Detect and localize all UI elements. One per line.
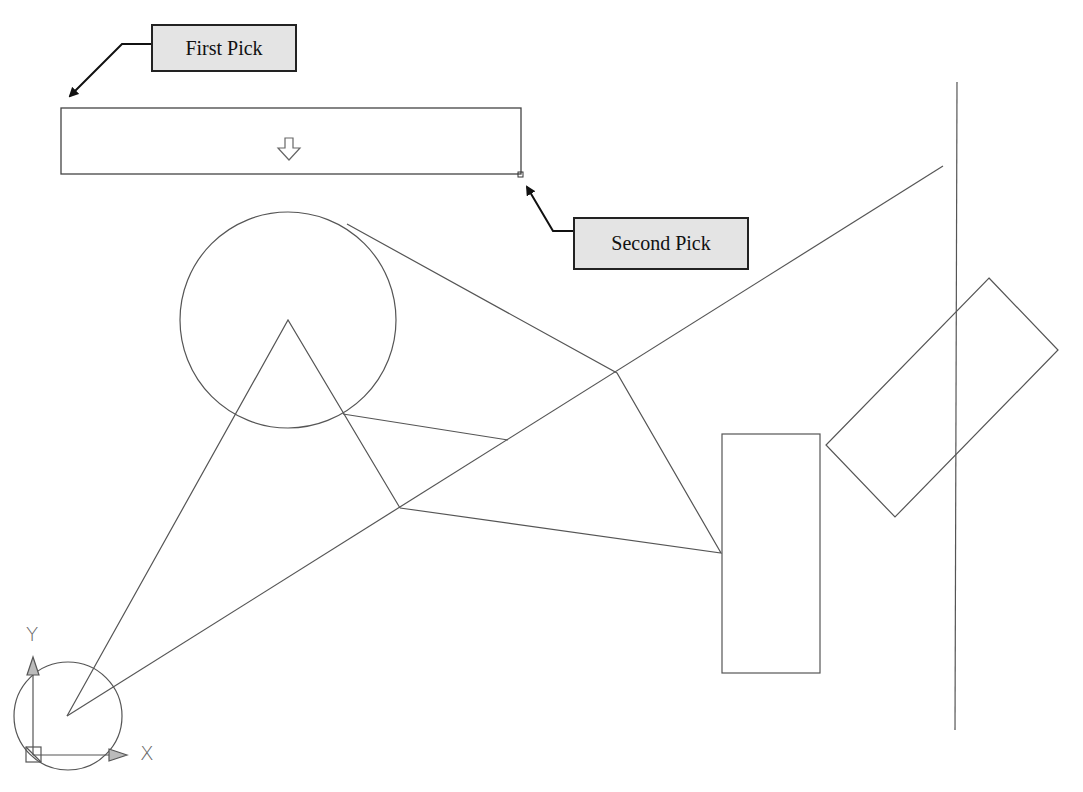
y-axis-arrow-icon: [27, 657, 39, 675]
down-arrow-icon: [278, 138, 300, 160]
second-pick-label: Second Pick: [611, 232, 710, 255]
selection-window: [61, 108, 521, 174]
vertical-rectangle[interactable]: [722, 434, 820, 673]
second-pick-callout: Second Pick: [573, 217, 749, 270]
long-diagonal-line[interactable]: [67, 166, 943, 716]
triangle-polyline[interactable]: [67, 320, 400, 716]
rotated-rectangle[interactable]: [826, 278, 1058, 517]
x-axis-label: X: [140, 741, 154, 765]
vertical-line[interactable]: [955, 82, 957, 730]
first-pick-leader: [70, 44, 151, 96]
drawing-canvas[interactable]: [0, 0, 1083, 792]
circle-to-diagonal-line[interactable]: [343, 414, 508, 440]
first-pick-label: First Pick: [185, 37, 262, 60]
first-pick-callout: First Pick: [151, 24, 297, 72]
x-axis-arrow-icon: [109, 749, 127, 761]
second-pick-leader: [527, 187, 573, 231]
y-axis-label: Y: [26, 622, 38, 646]
tangent-polyline[interactable]: [347, 224, 721, 553]
